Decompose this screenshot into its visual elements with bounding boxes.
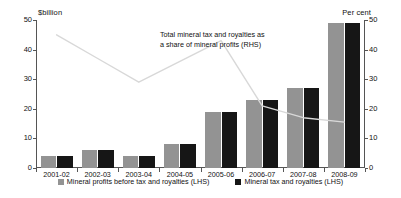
- axis-tick-label: 50: [24, 16, 32, 24]
- legend-item: Mineral profits before tax and royalties…: [58, 177, 210, 186]
- x-axis-tick: [118, 168, 119, 172]
- x-axis-tick: [201, 168, 202, 172]
- axis-tick-label: 30: [369, 75, 377, 83]
- annotation-line-2: a share of mineral profits (RHS): [160, 40, 292, 50]
- axis-tick-label: 10: [24, 135, 32, 143]
- chart-legend: Mineral profits before tax and royalties…: [0, 177, 401, 186]
- axis-tick: [365, 20, 368, 21]
- x-axis-tick: [77, 168, 78, 172]
- x-axis-tick: [283, 168, 284, 172]
- mineral-profits-chart: $billion Per cent 01020304050 0102030405…: [0, 0, 401, 198]
- right-axis-unit-label: Per cent: [342, 8, 371, 17]
- line-series-annotation: Total mineral tax and royalties as a sha…: [160, 30, 292, 51]
- axis-tick-label: 50: [369, 16, 377, 24]
- axis-tick: [365, 79, 368, 80]
- x-axis-tick: [365, 168, 366, 172]
- legend-item: Mineral tax and royalties (LHS): [235, 177, 343, 186]
- x-axis-tick: [159, 168, 160, 172]
- x-axis-tick: [242, 168, 243, 172]
- legend-label: Mineral profits before tax and royalties…: [67, 177, 210, 186]
- legend-label: Mineral tax and royalties (LHS): [244, 177, 343, 186]
- axis-tick-label: 0: [28, 164, 32, 172]
- axis-tick-label: 40: [369, 46, 377, 54]
- axis-tick: [365, 109, 368, 110]
- axis-tick-label: 0: [369, 164, 373, 172]
- legend-swatch-profits: [58, 179, 64, 185]
- x-axis-tick: [36, 168, 37, 172]
- legend-swatch-tax: [235, 179, 241, 185]
- axis-tick: [365, 138, 368, 139]
- axis-tick-label: 20: [24, 105, 32, 113]
- axis-tick-label: 10: [369, 135, 377, 143]
- left-axis-unit-label: $billion: [38, 8, 62, 17]
- axis-tick: [365, 50, 368, 51]
- axis-tick-label: 20: [369, 105, 377, 113]
- axis-tick-label: 40: [24, 46, 32, 54]
- annotation-line-1: Total mineral tax and royalties as: [160, 30, 292, 40]
- axis-tick-label: 30: [24, 75, 32, 83]
- x-axis-tick: [324, 168, 325, 172]
